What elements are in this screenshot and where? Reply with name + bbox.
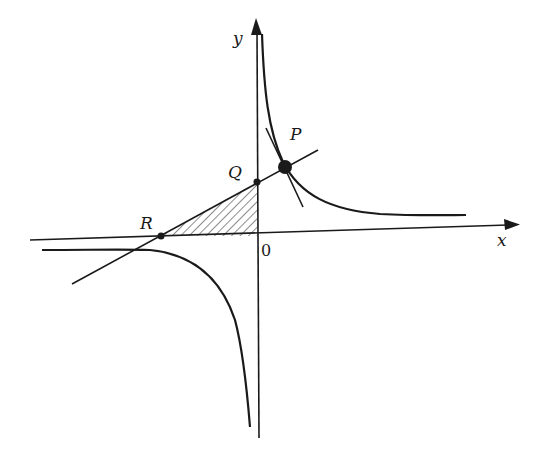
y-axis-arrow-icon [251, 18, 262, 35]
point-r-marker [158, 233, 165, 240]
hyperbola-branch-third-quadrant [42, 250, 250, 427]
x-axis-arrow-icon [504, 219, 520, 230]
point-r-label: R [139, 213, 153, 233]
point-q-marker [254, 179, 261, 186]
point-q-label: Q [228, 162, 242, 182]
y-axis-label: y [232, 28, 243, 48]
hyperbola-diagram: y x 0 P Q R [0, 0, 549, 457]
origin-label: 0 [261, 241, 271, 260]
point-p-label: P [289, 124, 302, 144]
point-p-marker [278, 160, 292, 174]
x-axis [30, 219, 520, 240]
x-axis-label: x [497, 230, 507, 250]
